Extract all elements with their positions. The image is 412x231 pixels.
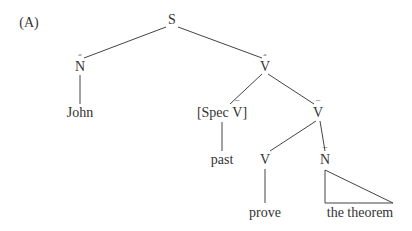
node-v-double-bar: ˝V — [260, 59, 270, 75]
edge-s-n — [84, 27, 166, 58]
node-past: past — [211, 152, 234, 168]
double-bar-mark: ˝ — [79, 54, 82, 63]
double-bar-mark: ˝ — [264, 54, 267, 63]
edge-s-v — [178, 27, 262, 58]
node-john: John — [67, 105, 93, 121]
node-spec-v-bar: [Spec ¯V] — [197, 105, 247, 121]
example-label: (A) — [19, 15, 38, 31]
node-prove: prove — [249, 205, 281, 221]
triangle-np — [325, 170, 393, 203]
node-v: V — [260, 152, 270, 168]
node-v-bar: ¯V — [313, 105, 323, 121]
bar-mark: ¯ — [316, 100, 321, 109]
node-the-theorem: the theorem — [327, 205, 393, 221]
node-n-double-bar: ˝N — [75, 59, 85, 75]
bar-mark: ¯ — [323, 147, 328, 156]
node-n-bar: ¯N — [320, 152, 330, 168]
node-s: S — [168, 12, 176, 28]
bar-mark: ¯ — [235, 100, 240, 109]
edge-v-vbar — [268, 74, 314, 104]
edge-vbar-v — [270, 121, 316, 151]
